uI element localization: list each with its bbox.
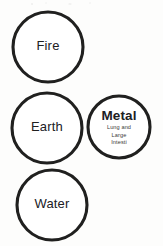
diagram-canvas: Fire Earth Water Metal Lung and Large In… bbox=[0, 0, 163, 246]
node-fire[interactable]: Fire bbox=[13, 12, 83, 82]
node-metal-sublabel-line-1: Lung and bbox=[107, 124, 131, 130]
node-metal-sublabel-line-2: Large bbox=[112, 132, 127, 138]
node-earth[interactable]: Earth bbox=[12, 93, 82, 163]
node-metal[interactable]: Metal Lung and Large Intesti bbox=[88, 96, 150, 158]
node-water-label: Water bbox=[34, 196, 70, 211]
node-metal-sublabel-line-3: Intesti bbox=[111, 139, 127, 145]
five-element-diagram: Fire Earth Water Metal Lung and Large In… bbox=[0, 0, 163, 246]
node-earth-label: Earth bbox=[31, 119, 63, 134]
node-water[interactable]: Water bbox=[17, 170, 87, 240]
node-metal-label: Metal bbox=[101, 108, 136, 123]
node-fire-label: Fire bbox=[36, 38, 59, 53]
